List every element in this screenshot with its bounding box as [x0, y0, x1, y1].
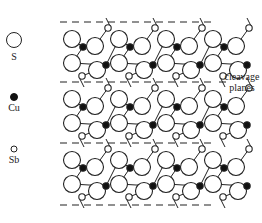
- copper-atom-icon: [174, 104, 180, 110]
- sulfur-atom-icon: [205, 31, 222, 48]
- sulfur-atom-icon: [111, 176, 128, 193]
- antimony-atom-icon: [246, 146, 252, 152]
- copper-atom-icon: [80, 165, 86, 171]
- antimony-atom-icon: [220, 133, 226, 139]
- copper-atom-icon: [244, 62, 250, 68]
- sulfur-atom-icon: [111, 115, 128, 132]
- sulfur-atom-icon: [64, 152, 81, 169]
- bond-tick: [127, 79, 131, 87]
- legend-item-s: S: [7, 33, 22, 63]
- copper-atom-icon: [244, 122, 250, 128]
- antimony-atom-icon: [126, 194, 132, 200]
- copper-atom-icon: [244, 183, 250, 189]
- copper-atom-icon: [150, 122, 156, 128]
- crystal-structure-diagram: S Cu Sb cleavage planes: [0, 0, 262, 223]
- bond-tick: [127, 139, 131, 147]
- copper-atom-icon: [197, 183, 203, 189]
- antimony-atom-icon: [79, 73, 85, 79]
- sulfur-atom-icon: [7, 33, 22, 48]
- sulfur-atom-icon: [158, 152, 175, 169]
- copper-atom-icon: [103, 183, 109, 189]
- sulfur-atom-icon: [134, 38, 151, 55]
- legend-label-s: S: [11, 51, 17, 62]
- sulfur-atom-icon: [158, 55, 175, 72]
- annotation-text-line2: planes: [229, 82, 255, 93]
- copper-atom-icon: [80, 44, 86, 50]
- sulfur-atom-icon: [64, 31, 81, 48]
- sulfur-atom-icon: [87, 38, 104, 55]
- legend-item-sb: Sb: [9, 146, 20, 165]
- legend: S Cu Sb: [7, 33, 22, 166]
- sulfur-atom-icon: [205, 115, 222, 132]
- antimony-atom-icon: [173, 73, 179, 79]
- antimony-atom-icon: [246, 25, 252, 31]
- copper-atom-icon: [221, 165, 227, 171]
- sulfur-atom-icon: [158, 91, 175, 108]
- antimony-atom-icon: [199, 146, 205, 152]
- sulfur-atom-icon: [205, 91, 222, 108]
- antimony-atom-icon: [105, 25, 111, 31]
- sulfur-atom-icon: [228, 159, 245, 176]
- antimony-atom-icon: [173, 194, 179, 200]
- antimony-atom-icon: [79, 194, 85, 200]
- atoms: [64, 25, 253, 200]
- sulfur-atom-icon: [158, 115, 175, 132]
- copper-atom-icon: [221, 104, 227, 110]
- sulfur-atom-icon: [158, 176, 175, 193]
- bond-tick: [221, 200, 225, 208]
- copper-atom-icon: [150, 183, 156, 189]
- sulfur-atom-icon: [87, 98, 104, 115]
- sulfur-atom-icon: [87, 159, 104, 176]
- antimony-atom-icon: [152, 85, 158, 91]
- bond-tick: [80, 139, 84, 147]
- sulfur-atom-icon: [181, 38, 198, 55]
- sulfur-atom-icon: [205, 55, 222, 72]
- antimony-atom-icon: [152, 25, 158, 31]
- sulfur-atom-icon: [111, 55, 128, 72]
- legend-item-cu: Cu: [8, 94, 20, 114]
- copper-atom-icon: [80, 104, 86, 110]
- legend-label-sb: Sb: [9, 154, 20, 165]
- sulfur-atom-icon: [205, 152, 222, 169]
- copper-atom-icon: [221, 44, 227, 50]
- bond-tick: [80, 200, 84, 208]
- bond-tick: [127, 200, 131, 208]
- copper-atom-icon: [150, 62, 156, 68]
- copper-atom-icon: [174, 165, 180, 171]
- copper-atom-icon: [197, 122, 203, 128]
- antimony-atom-icon: [126, 73, 132, 79]
- annotation-text-line1: cleavage: [225, 71, 261, 82]
- bond-tick: [174, 79, 178, 87]
- sulfur-atom-icon: [134, 98, 151, 115]
- sulfur-atom-icon: [111, 31, 128, 48]
- sulfur-atom-icon: [64, 55, 81, 72]
- cleavage-planes-annotation: cleavage planes: [219, 71, 260, 93]
- copper-atom-icon: [103, 122, 109, 128]
- bond-tick: [221, 139, 225, 147]
- bond-tick: [174, 200, 178, 208]
- antimony-atom-icon: [79, 133, 85, 139]
- antimony-atom-icon: [11, 146, 17, 152]
- sulfur-atom-icon: [64, 176, 81, 193]
- copper-atom-icon: [103, 62, 109, 68]
- legend-label-cu: Cu: [8, 102, 20, 113]
- antimony-atom-icon: [199, 25, 205, 31]
- copper-atom-icon: [11, 94, 18, 101]
- antimony-atom-icon: [105, 146, 111, 152]
- copper-atom-icon: [127, 44, 133, 50]
- copper-atom-icon: [197, 62, 203, 68]
- sulfur-atom-icon: [111, 91, 128, 108]
- sulfur-atom-icon: [64, 115, 81, 132]
- sulfur-atom-icon: [158, 31, 175, 48]
- copper-atom-icon: [127, 165, 133, 171]
- sulfur-atom-icon: [228, 38, 245, 55]
- antimony-atom-icon: [220, 194, 226, 200]
- sulfur-atom-icon: [64, 91, 81, 108]
- sulfur-atom-icon: [181, 159, 198, 176]
- copper-atom-icon: [174, 44, 180, 50]
- antimony-atom-icon: [105, 85, 111, 91]
- sulfur-atom-icon: [205, 176, 222, 193]
- sulfur-atom-icon: [134, 159, 151, 176]
- sulfur-atom-icon: [228, 98, 245, 115]
- antimony-atom-icon: [199, 85, 205, 91]
